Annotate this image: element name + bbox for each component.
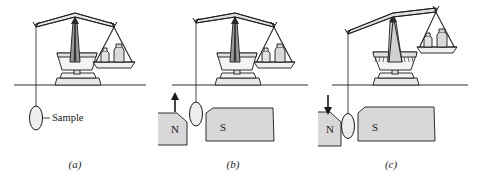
- pole-label-south-c: S: [372, 121, 378, 133]
- pole-label-north-b: N: [171, 123, 179, 135]
- balance-pan: [93, 62, 135, 68]
- panel-caption-b: (b): [213, 158, 253, 170]
- pan-weight-2-b: [275, 44, 285, 62]
- balance-pan-b: [254, 62, 295, 68]
- balance-pointer-column: [70, 16, 80, 62]
- panel-c: N S: [318, 0, 477, 181]
- panel-caption-a: (a): [55, 158, 95, 170]
- gouy-balance-figure: Sample: [0, 0, 477, 181]
- balance-pan-c: [417, 47, 457, 53]
- panel-caption-c: (c): [371, 158, 411, 170]
- pole-label-south-b: S: [220, 121, 226, 133]
- pan-weight-1-b: [262, 48, 270, 62]
- panel-b: N S: [158, 0, 318, 181]
- sample-specimen: [30, 106, 43, 130]
- magnet-pole-south-c: [358, 107, 435, 141]
- sample-specimen-c: [342, 114, 355, 139]
- sample-label: Sample: [52, 112, 84, 123]
- pan-cords-b: [256, 27, 293, 63]
- pole-label-north-c: N: [326, 123, 334, 135]
- balance-pointer-column-c: [388, 14, 402, 62]
- pan-weight-2-c: [437, 29, 447, 47]
- force-arrow-up-b: [171, 92, 179, 112]
- panel-a: Sample: [0, 0, 158, 181]
- balance-pointer-column-b: [230, 16, 240, 62]
- magnet-pole-south-b: [206, 108, 274, 141]
- sample-specimen-b: [190, 102, 203, 126]
- pan-weight-2: [114, 44, 124, 62]
